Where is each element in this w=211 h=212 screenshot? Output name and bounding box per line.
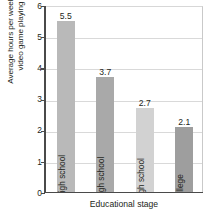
bar-chart: Average hours per week of video game pla… bbox=[0, 0, 211, 212]
bar-category-label: Late high school bbox=[136, 158, 144, 192]
bar-category-label: College bbox=[176, 174, 184, 192]
y-axis-tick-label: 4 bbox=[28, 64, 42, 72]
y-axis-tick-label: 0 bbox=[28, 189, 42, 197]
bar-value-label: 2.1 bbox=[178, 118, 190, 127]
y-axis-tick-mark bbox=[41, 193, 45, 194]
y-axis-tick-mark bbox=[41, 131, 45, 132]
y-axis-tick-label: 2 bbox=[28, 126, 42, 134]
y-axis-tick-label: 1 bbox=[28, 158, 42, 166]
bar: Late high school bbox=[136, 108, 154, 192]
y-axis-tick-mark bbox=[41, 6, 45, 7]
y-axis-tick-labels: 6543210 bbox=[26, 0, 42, 212]
y-axis-tick-label: 3 bbox=[28, 95, 42, 103]
y-axis-tick-label: 5 bbox=[28, 33, 42, 41]
y-axis-title-text: Average hours per week of video game pla… bbox=[6, 0, 26, 84]
x-axis-title: Educational stage bbox=[45, 200, 203, 209]
bar-value-label: 5.5 bbox=[60, 12, 72, 21]
bar-value-label: 2.7 bbox=[139, 99, 151, 108]
bar: Early high school bbox=[96, 77, 114, 192]
y-axis-tick-mark bbox=[41, 68, 45, 69]
x-axis-line bbox=[45, 192, 203, 193]
bar-value-label: 3.7 bbox=[99, 68, 111, 77]
bar: Junior high school bbox=[57, 21, 75, 192]
bar-category-label: Junior high school bbox=[57, 155, 65, 192]
plot-area: Junior high school5.5Early high school3.… bbox=[45, 6, 203, 193]
bar-category-label: Early high school bbox=[97, 156, 105, 192]
y-axis-tick-mark bbox=[41, 37, 45, 38]
y-axis-tick-label: 6 bbox=[28, 2, 42, 10]
y-axis-tick-mark bbox=[41, 100, 45, 101]
bar: College bbox=[175, 127, 193, 192]
y-axis-tick-mark bbox=[41, 162, 45, 163]
